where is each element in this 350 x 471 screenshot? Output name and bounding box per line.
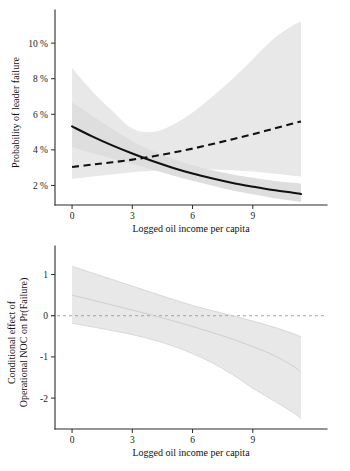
x-tick-label: 6	[190, 435, 195, 445]
svg-text:Operational NOC on Pr(Failure): Operational NOC on Pr(Failure)	[18, 278, 30, 408]
chart-panel-top: 2 %4 %6 %8 %10 %0369Logged oil income pe…	[0, 0, 350, 236]
x-axis-title: Logged oil income per capita	[132, 447, 250, 458]
y-tick-label: -1	[40, 352, 48, 362]
y-tick-label: 10 %	[28, 39, 48, 49]
x-axis-title: Logged oil income per capita	[132, 223, 250, 234]
ci-band	[72, 266, 301, 418]
confidence-bands	[72, 22, 301, 202]
y-tick-label: -2	[40, 394, 48, 404]
figure-container: 2 %4 %6 %8 %10 %0369Logged oil income pe…	[0, 0, 350, 471]
y-tick-label: 1	[43, 270, 48, 280]
y-tick-label: 6 %	[33, 110, 48, 120]
x-tick-label: 0	[70, 435, 75, 445]
y-tick-label: 0	[43, 311, 48, 321]
plot-panel-top: 2 %4 %6 %8 %10 %0369Logged oil income pe…	[0, 0, 350, 236]
x-tick-label: 6	[190, 211, 195, 221]
confidence-bands	[72, 266, 301, 418]
x-tick-label: 0	[70, 211, 75, 221]
x-tick-label: 9	[250, 211, 255, 221]
x-tick-label: 9	[250, 435, 255, 445]
x-tick-label: 3	[130, 211, 135, 221]
y-axis-title: Conditional effect ofOperational NOC on …	[6, 278, 30, 408]
svg-text:Conditional effect of: Conditional effect of	[6, 300, 17, 384]
y-tick-label: 2 %	[33, 181, 48, 191]
y-axis-title: Probability of leader failure	[10, 57, 21, 168]
y-tick-label: 4 %	[33, 145, 48, 155]
svg-text:Probability of leader failure: Probability of leader failure	[10, 57, 21, 168]
x-tick-label: 3	[130, 435, 135, 445]
y-tick-label: 8 %	[33, 74, 48, 84]
plot-panel-bottom: 10-1-20369Logged oil income per capitaCo…	[0, 236, 350, 471]
chart-panel-bottom: 10-1-20369Logged oil income per capitaCo…	[0, 236, 350, 471]
